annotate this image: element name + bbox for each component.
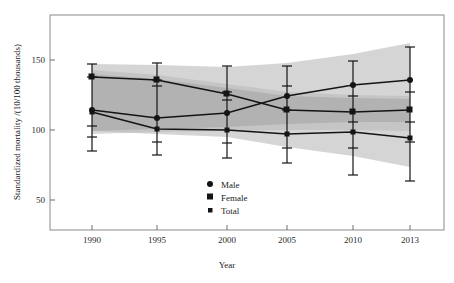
x-tick-label-2000: 2000: [218, 235, 237, 245]
legend-marker-total: [208, 208, 213, 213]
y-axis-title: Standardized mortality /(10/100 thousand…: [12, 44, 22, 200]
legend-label-female: Female: [221, 193, 248, 203]
legend-marker-female: [207, 194, 213, 200]
x-tick-label-2010: 2010: [344, 235, 363, 245]
x-tick-label-1995: 1995: [148, 235, 167, 245]
legend-marker-male: [207, 181, 213, 187]
x-tick-label-1990: 1990: [83, 235, 102, 245]
x-tick-label-2005: 2005: [278, 235, 297, 245]
legend-label-total: Total: [221, 206, 240, 216]
y-tick-label-100: 100: [32, 125, 46, 135]
y-tick-label-150: 150: [32, 55, 46, 65]
x-tick-label-2013: 2013: [401, 235, 420, 245]
chart-figure: 150 100 50 1990 1995 2000 2005 2010 2013…: [0, 0, 454, 283]
mortality-trend-chart: 150 100 50 1990 1995 2000 2005 2010 2013…: [0, 0, 454, 283]
legend-label-male: Male: [221, 180, 240, 190]
y-tick-label-50: 50: [36, 195, 46, 205]
x-axis-title: Year: [219, 260, 236, 270]
